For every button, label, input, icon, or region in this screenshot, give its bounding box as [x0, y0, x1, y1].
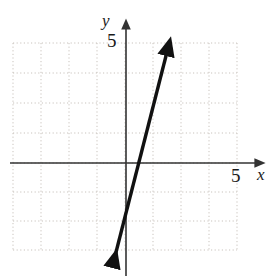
y-axis-label: y — [102, 12, 110, 29]
x-axis-label: x — [257, 166, 265, 183]
y-axis-tick-label-5: 5 — [107, 31, 117, 50]
coordinate-plane-svg — [0, 0, 274, 276]
x-axis-tick-label-5: 5 — [231, 166, 241, 185]
plotted-line — [113, 52, 167, 264]
graph-figure: y x 5 5 — [0, 0, 274, 276]
